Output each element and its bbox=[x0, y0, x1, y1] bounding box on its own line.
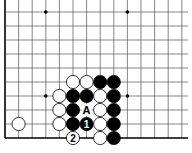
hoshi-point-icon bbox=[44, 10, 48, 14]
black-stone bbox=[80, 89, 93, 102]
go-board: 12 A bbox=[0, 0, 192, 153]
white-stone bbox=[94, 131, 107, 144]
hoshi-point-icon bbox=[126, 10, 130, 14]
black-stone bbox=[66, 89, 79, 102]
black-stone bbox=[66, 117, 79, 130]
white-stone bbox=[94, 89, 107, 102]
black-stone bbox=[107, 117, 120, 130]
white-stone bbox=[80, 75, 93, 88]
board-markers: A bbox=[82, 104, 92, 116]
black-stone bbox=[107, 89, 120, 102]
black-stone bbox=[66, 103, 79, 116]
board-grid bbox=[5, 0, 188, 138]
white-stone bbox=[94, 103, 107, 116]
white-stone bbox=[12, 117, 25, 130]
white-stone bbox=[94, 117, 107, 130]
black-stone bbox=[94, 75, 107, 88]
move-number-label: 1 bbox=[84, 119, 90, 130]
point-label-marker: A bbox=[83, 104, 91, 116]
white-stone bbox=[66, 75, 79, 88]
white-stone bbox=[53, 117, 66, 130]
black-stone bbox=[107, 131, 120, 144]
hoshi-point-icon bbox=[44, 94, 48, 98]
white-stone bbox=[53, 89, 66, 102]
black-stone bbox=[107, 103, 120, 116]
white-stone bbox=[53, 103, 66, 116]
black-stone bbox=[107, 75, 120, 88]
move-number-label: 2 bbox=[70, 133, 76, 144]
hoshi-point-icon bbox=[126, 94, 130, 98]
